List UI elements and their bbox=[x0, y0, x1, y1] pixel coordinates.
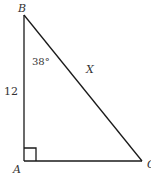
vertex-label-b: B bbox=[17, 2, 26, 15]
triangle-edges bbox=[24, 15, 142, 161]
hypotenuse-label: X bbox=[85, 63, 95, 76]
hypotenuse-bc bbox=[24, 15, 142, 161]
triangle-diagram: B A C 12 38° X bbox=[0, 0, 151, 174]
right-angle-marker bbox=[24, 148, 36, 161]
vertex-label-c: C bbox=[147, 158, 151, 171]
vertex-label-a: A bbox=[12, 163, 21, 174]
angle-b-label: 38° bbox=[32, 56, 50, 67]
side-ab-length-label: 12 bbox=[4, 85, 18, 98]
